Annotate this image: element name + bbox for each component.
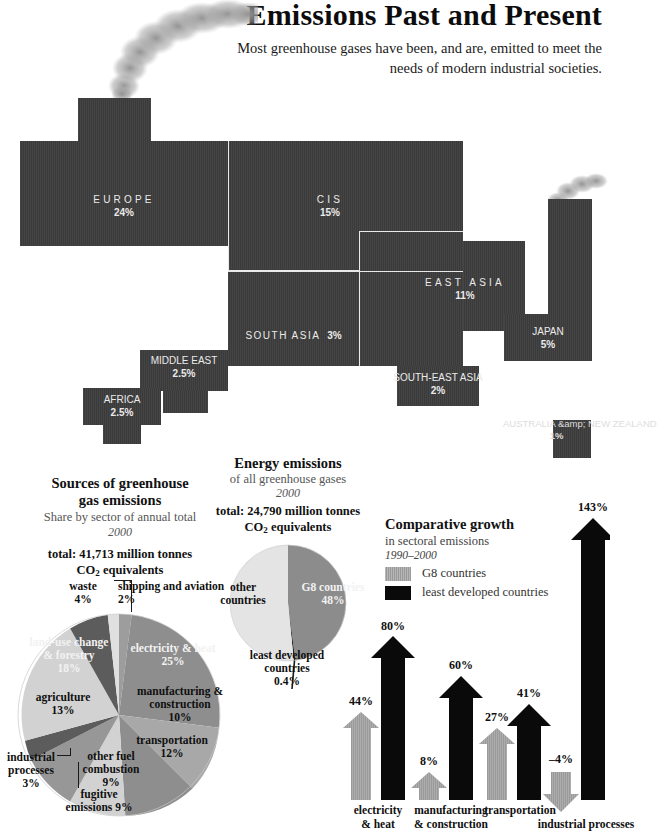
cartogram-block-south-east-asia (397, 366, 479, 406)
pie-leader-fugitive-emissions (78, 762, 79, 788)
pie-label-waste: waste 4% (52, 580, 114, 606)
energy-pie-label-other-countries: othercountries (204, 581, 282, 607)
growth-category-transportation: transportation (474, 804, 566, 818)
growth-value-g8-electricity-heat: 44% (340, 694, 382, 709)
pie-label-agriculture: agriculture 13% (18, 691, 108, 717)
cartogram-block-europe-chimney (78, 98, 151, 142)
growth-value-ldc-manufacturing-construction: 60% (440, 658, 482, 673)
pie-leader-shipping-aviation-h (114, 580, 132, 581)
growth-value-g8-transportation: 27% (476, 710, 518, 725)
comparative-growth-section: Comparative growth in sectoral emissions… (340, 500, 610, 837)
growth-value-ldc-electricity-heat: 80% (372, 619, 414, 634)
pie-label-industrial-processes: industrialprocesses 3% (0, 751, 62, 790)
cartogram-block-middle-east (140, 350, 228, 391)
pie-leader-shipping-aviation (131, 580, 132, 612)
growth-value-ldc-industrial-processes: 143% (570, 500, 616, 515)
pie-leader-industrial-processes-v (70, 748, 71, 756)
cartogram-block-africa-lower (103, 425, 141, 444)
growth-arrow-g8-transportation (479, 728, 515, 800)
cartogram-block-japan-base (504, 314, 592, 361)
energy-pie-title: Energy emissions (196, 455, 380, 472)
energy-pie-year: 2000 (196, 486, 380, 501)
pie-label-other-fuel-combustion: other fuelcombustion 9% (72, 750, 150, 789)
cartogram-block-australia-nz (553, 420, 591, 458)
cartogram-block-east-asia-upper (359, 231, 463, 271)
growth-arrow-ldc-manufacturing-construction (439, 676, 483, 800)
growth-value-ldc-transportation: 41% (508, 686, 550, 701)
cartogram-block-cis (228, 141, 359, 271)
cartogram-block-cis-east (359, 141, 463, 231)
pie-label-land-use-change-forestry: land-use change& forestry 18% (20, 636, 118, 675)
cartogram-block-africa (83, 388, 161, 425)
cartogram-block-east-asia-main (359, 271, 463, 366)
growth-category-industrial-processes: industrial processes (522, 818, 650, 832)
growth-value-g8-manufacturing-construction: 8% (408, 754, 450, 769)
world-emissions-cartogram: EUROPE 24% CIS 15% EAST ASIA 11% SOUTH A… (0, 0, 610, 470)
growth-arrow-g8-electricity-heat (343, 712, 379, 800)
growth-arrow-g8-manufacturing-construction (411, 772, 447, 800)
growth-arrow-ldc-electricity-heat (371, 636, 415, 800)
smoke-plume-icon (78, 0, 258, 102)
cartogram-block-south-asia (228, 271, 359, 366)
cartogram-block-middle-east-lower (163, 391, 208, 413)
pie-label-fugitive-emissions: fugitiveemissions 9% (42, 788, 156, 814)
pie-leader-industrial-processes (57, 755, 71, 756)
growth-value-g8-industrial-processes: –4% (540, 752, 582, 767)
cartogram-block-europe (20, 141, 228, 246)
energy-pie-subtitle: of all greenhouse gases (196, 472, 380, 487)
